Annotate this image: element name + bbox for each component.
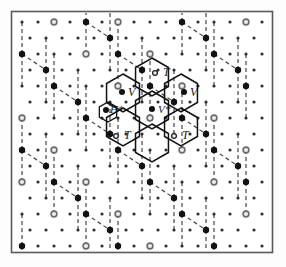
lattice-dot-large	[19, 243, 25, 249]
lattice-dot-small	[36, 148, 39, 151]
lattice-dot-small	[260, 84, 263, 87]
label-marker-filled-h-star	[103, 107, 109, 113]
lattice-dot-small	[164, 148, 167, 151]
lattice-dot-ring	[211, 179, 217, 185]
lattice-dot-small	[92, 196, 95, 199]
lattice-dot-small	[76, 36, 79, 39]
lattice-dot-small	[124, 164, 127, 167]
lattice-dot-small	[76, 164, 79, 167]
lattice-dot-small	[36, 180, 39, 183]
lattice-dot-small	[36, 52, 39, 55]
lattice-dot-small	[228, 180, 231, 183]
lattice-dot-small	[44, 100, 47, 103]
lattice-dot-small	[220, 100, 223, 103]
lattice-dot-small	[212, 20, 215, 23]
lattice-dot-large	[211, 51, 217, 57]
lattice-dot-small	[100, 148, 103, 151]
lattice-dot-small	[92, 68, 95, 71]
lattice-dot-large	[203, 131, 209, 137]
lattice-dot-small	[100, 244, 103, 247]
lattice-dot-small	[92, 164, 95, 167]
label-marker-filled-v-star	[149, 106, 155, 112]
lattice-dot-small	[204, 196, 207, 199]
lattice-dot-small	[228, 212, 231, 215]
lattice-dot-small	[228, 148, 231, 151]
lattice-dot-small	[60, 164, 63, 167]
lattice-dot-ring	[211, 115, 217, 121]
lattice-dot-small	[204, 68, 207, 71]
label-marker-filled-v-left	[119, 89, 125, 95]
lattice-dot-small	[236, 36, 239, 39]
lattice-dot-large	[203, 227, 209, 233]
lattice-dot-small	[124, 228, 127, 231]
lattice-dot-large	[51, 179, 57, 185]
lattice-dot-ring	[147, 51, 153, 57]
lattice-dot-small	[60, 68, 63, 71]
lattice-dot-small	[68, 20, 71, 23]
lattice-dot-large	[83, 115, 89, 121]
lattice-dot-small	[36, 244, 39, 247]
lattice-dot-small	[196, 180, 199, 183]
lattice-dot-small	[252, 132, 255, 135]
lattice-dot-large	[107, 35, 113, 41]
lattice-dot-small	[124, 100, 127, 103]
lattice-dot-ring	[179, 147, 185, 153]
lattice-dot-small	[20, 212, 23, 215]
lattice-dot-large	[147, 83, 153, 89]
lattice-dot-small	[28, 228, 31, 231]
lattice-dot-ring	[19, 115, 25, 121]
lattice-dot-small	[244, 116, 247, 119]
lattice-dot-small	[44, 36, 47, 39]
lattice-dot-small	[252, 68, 255, 71]
lattice-dot-small	[132, 52, 135, 55]
lattice-dot-large	[19, 51, 25, 57]
lattice-dot-small	[36, 212, 39, 215]
lattice-dot-small	[260, 20, 263, 23]
lattice-dot-large	[75, 99, 81, 105]
lattice-dot-small	[76, 132, 79, 135]
lattice-dot-ring	[19, 179, 25, 185]
lattice-dot-small	[28, 36, 31, 39]
lattice-dot-large	[243, 179, 249, 185]
lattice-dot-small	[188, 68, 191, 71]
lattice-dot-small	[172, 68, 175, 71]
lattice-dot-small	[148, 148, 151, 151]
lattice-dot-small	[124, 68, 127, 71]
lattice-dot-large	[147, 179, 153, 185]
site-label-v-star: V*	[158, 103, 171, 115]
lattice-dot-small	[100, 20, 103, 23]
lattice-dot-small	[252, 100, 255, 103]
lattice-dot-small	[84, 84, 87, 87]
lattice-dot-small	[140, 36, 143, 39]
lattice-dot-small	[124, 36, 127, 39]
lattice-dot-large	[171, 99, 177, 105]
lattice-dot-small	[156, 164, 159, 167]
lattice-dot-large	[139, 67, 145, 73]
lattice-dot-small	[212, 212, 215, 215]
lattice-dot-ring	[83, 179, 89, 185]
lattice-dot-small	[156, 228, 159, 231]
lattice-dot-small	[28, 100, 31, 103]
lattice-dot-ring	[51, 147, 57, 153]
lattice-dot-small	[100, 52, 103, 55]
lattice-dot-small	[132, 244, 135, 247]
lattice-dot-large	[75, 195, 81, 201]
lattice-dot-small	[28, 196, 31, 199]
lattice-dot-small	[228, 244, 231, 247]
lattice-dot-small	[260, 52, 263, 55]
lattice-dot-ring	[243, 211, 249, 217]
site-label-h-star: H*	[109, 103, 124, 115]
lattice-dot-large	[43, 67, 49, 73]
lattice-dot-large	[211, 147, 217, 153]
lattice-dot-small	[68, 84, 71, 87]
lattice-dot-large	[115, 243, 121, 249]
lattice-dot-small	[260, 180, 263, 183]
lattice-dot-small	[252, 164, 255, 167]
lattice-dot-small	[220, 36, 223, 39]
lattice-dot-small	[20, 20, 23, 23]
lattice-dot-ring	[83, 243, 89, 249]
lattice-dot-small	[28, 68, 31, 71]
lattice-dot-large	[179, 115, 185, 121]
lattice-dot-small	[76, 228, 79, 231]
lattice-dot-ring	[115, 211, 121, 217]
